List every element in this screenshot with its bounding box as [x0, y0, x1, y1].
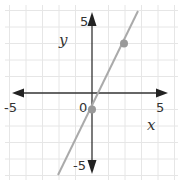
origin-label: 0: [79, 100, 87, 115]
x-axis: [12, 89, 168, 98]
y-axis-up-arrow-icon: [88, 12, 97, 26]
x-axis-right-arrow-icon: [156, 89, 168, 98]
x-axis-left-arrow-icon: [12, 89, 24, 98]
y-min-label: -5: [73, 158, 86, 173]
coordinate-plane: -5 5 5 -5 0 x y: [0, 0, 180, 184]
x-max-label: 5: [156, 100, 164, 115]
point-0-neg1: [88, 106, 96, 114]
y-axis-down-arrow-icon: [88, 160, 97, 174]
y-max-label: 5: [80, 14, 88, 29]
y-axis-label: y: [58, 31, 68, 49]
x-axis-label: x: [147, 116, 156, 134]
x-min-label: -5: [4, 100, 17, 115]
point-2-3: [120, 40, 128, 48]
